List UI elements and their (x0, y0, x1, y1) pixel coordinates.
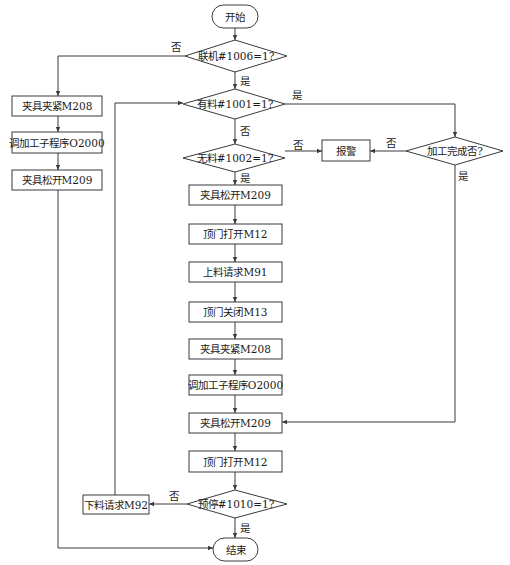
node-label: 夹具松开M209 (200, 417, 271, 429)
node-label: 顶门打开M12 (203, 456, 267, 468)
decision-done: 加工完成否? (406, 137, 503, 165)
node-label: 下料请求M92 (84, 499, 148, 511)
node-label: 夹具夹紧M208 (22, 100, 93, 112)
process-unload: 下料请求M92 (83, 495, 149, 514)
edge-label-nomat-yes: 是 (240, 172, 251, 184)
process-m2: 顶门打开M12 (189, 224, 282, 244)
edge-label-online-yes: 是 (240, 75, 251, 87)
node-label: 调加工子程序O2000 (188, 379, 283, 391)
edge-label-nomat-no: 否 (293, 139, 304, 151)
decision-has-material: 有料#1001=1? (183, 89, 285, 119)
process-m3: 上料请求M91 (189, 262, 282, 282)
decision-prestop: 预停#1010=1? (187, 490, 287, 518)
edge-label-prestop-yes: 是 (240, 522, 251, 534)
node-start: 开始 (212, 5, 258, 28)
node-label: 结束 (226, 544, 247, 556)
node-label: 顶门关闭M13 (203, 306, 267, 318)
node-end: 结束 (213, 538, 258, 561)
edge-label-prestop-no: 否 (169, 490, 180, 502)
process-m1: 夹具松开M209 (189, 185, 282, 205)
process-m7: 夹具松开M209 (189, 413, 282, 433)
node-label: 报警 (336, 145, 357, 157)
process-m5: 夹具夹紧M208 (189, 339, 282, 359)
node-label: 预停#1010=1? (198, 498, 275, 510)
node-label: 无料#1002=1? (197, 152, 274, 164)
edge-has-yes (285, 104, 455, 137)
edge-label-has-yes: 是 (292, 89, 303, 101)
decision-no-material: 无料#1002=1? (183, 144, 285, 172)
edge-label-online-no: 否 (171, 41, 182, 53)
process-m4: 顶门关闭M13 (189, 302, 282, 322)
process-left-release: 夹具松开M209 (12, 170, 102, 190)
edge-label-done-no: 否 (386, 137, 397, 149)
edge-online-no (58, 56, 185, 96)
node-label: 加工完成否? (427, 145, 483, 157)
process-alarm: 报警 (322, 140, 370, 161)
node-label: 夹具松开M209 (22, 174, 93, 186)
process-m6: 调加工子程序O2000 (188, 375, 283, 395)
process-m8: 顶门打开M12 (189, 451, 282, 472)
node-label: 夹具夹紧M208 (200, 343, 271, 355)
process-left-clamp: 夹具夹紧M208 (12, 96, 102, 116)
node-label: 开始 (225, 11, 246, 23)
node-label: 联机#1006=1? (198, 50, 275, 62)
node-label: 上料请求M91 (203, 266, 267, 278)
edge-unload-loop (115, 103, 183, 495)
node-label: 顶门打开M12 (203, 228, 267, 240)
process-left-call: 调加工子程序O2000 (9, 132, 104, 153)
decision-online: 联机#1006=1? (185, 40, 287, 72)
edge-label-has-no: 否 (240, 125, 251, 137)
edge-label-done-yes: 是 (458, 170, 469, 182)
node-label: 有料#1001=1? (197, 98, 274, 110)
flowchart: 开始 联机#1006=1? 有料#1001=1? 无料#1002=1? 报警 加… (0, 0, 510, 565)
edge-done-yes (282, 165, 455, 422)
node-label: 调加工子程序O2000 (9, 137, 104, 149)
node-label: 夹具松开M209 (200, 189, 271, 201)
